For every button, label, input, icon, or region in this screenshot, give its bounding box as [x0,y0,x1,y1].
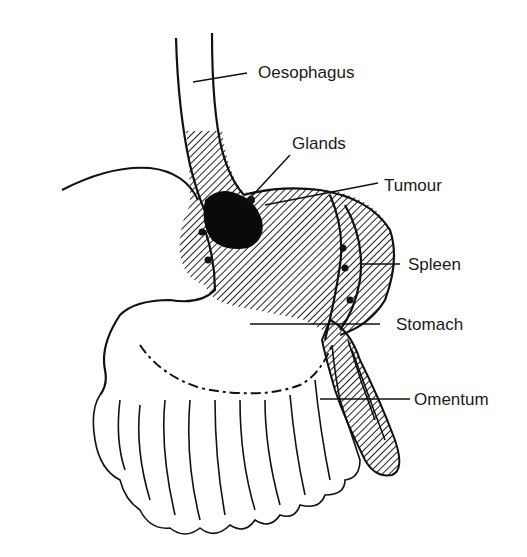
peritoneal-line [62,168,198,200]
label-omentum: Omentum [414,391,489,408]
label-tumour: Tumour [384,177,442,194]
label-spleen: Spleen [408,256,461,273]
dashed-line [140,345,332,393]
label-oesophagus: Oesophagus [258,64,354,81]
stomach-diagram: Oesophagus Glands Tumour Spleen Stomach … [0,0,527,557]
diagram-drawing [0,0,527,557]
affected-region-hatch [180,131,400,475]
label-stomach: Stomach [396,316,463,333]
label-glands: Glands [292,135,346,152]
